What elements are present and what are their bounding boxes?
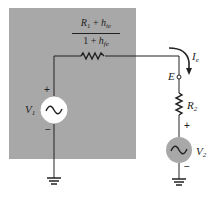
fraction-bar [72,33,120,34]
v1-minus-sign: − [45,124,51,135]
fraction-denominator: 1 + hfe [72,35,120,50]
v2-minus-sign: − [184,161,190,172]
terminal-e-icon [177,75,181,79]
v2-plus-sign: + [184,120,190,131]
v1-label: V1 [25,103,35,117]
ac-source-v2-icon [166,137,192,163]
fraction-numerator: R1 + hie [72,17,120,32]
terminal-e-label: E [168,70,175,82]
equivalent-resistance-label: R1 + hie 1 + hfe [72,17,120,50]
v1-plus-sign: + [44,84,50,95]
r2-label: R2 [187,99,197,113]
ground-left-icon [47,178,61,184]
equivalent-resistor-icon [81,53,104,59]
ground-right-icon [172,179,186,185]
ac-source-v1-icon [41,97,67,123]
current-label: Ie [192,50,199,64]
v2-label: V2 [196,145,206,159]
resistor-r2-icon [176,93,182,115]
